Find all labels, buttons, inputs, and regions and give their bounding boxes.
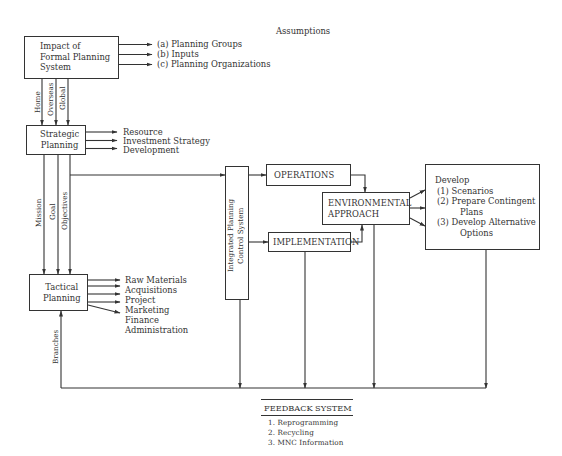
environmental-box-line: ENVIRONMENTAL [328, 198, 411, 209]
tactical-output-project: Project [125, 295, 155, 305]
feedback-system-title: FEEDBACK SYSTEM [261, 399, 353, 416]
tactical-output-acquisitions: Acquisitions [125, 285, 177, 295]
tactical-output-marketing: Marketing [125, 305, 169, 315]
flow-label-global: Global [58, 86, 67, 110]
develop-item-options: Options [435, 228, 536, 239]
flow-label-home: Home [33, 91, 42, 113]
flow-label-mission: Mission [34, 199, 43, 227]
develop-title: Develop [435, 175, 536, 186]
develop-item-scenarios: (1) Scenarios [435, 186, 536, 197]
tactical-box-line: Planning [43, 293, 81, 304]
impact-output-planning-groups: (a) Planning Groups [157, 39, 242, 49]
tactical-output-raw-materials: Raw Materials [125, 275, 187, 285]
tactical-output-administration: Administration [125, 325, 188, 335]
feedback-item-reprogramming: 1. Reprogramming [268, 418, 344, 428]
flow-label-goal: Goal [48, 203, 57, 220]
impact-box-line: Formal Planning [40, 52, 110, 63]
integrated-box-line: Control System [236, 199, 246, 272]
environmental-approach-box: ENVIRONMENTAL APPROACH [322, 192, 410, 225]
develop-item-develop-alternative: (3) Develop Alternative [435, 217, 536, 228]
strategic-box-line: Strategic [40, 129, 79, 140]
flow-label-overseas: Overseas [46, 82, 55, 116]
tactical-box-line: Tactical [43, 282, 81, 293]
operations-box: OPERATIONS [266, 164, 351, 186]
feedback-system-list: 1. Reprogramming 2. Recycling 3. MNC Inf… [268, 418, 344, 447]
integrated-box-line: Integrated Planning [226, 199, 236, 272]
feedback-item-recycling: 2. Recycling [268, 428, 344, 438]
impact-output-inputs: (b) Inputs [157, 49, 199, 59]
tactical-planning-box: Tactical Planning [29, 274, 88, 311]
develop-item-plans: Plans [435, 207, 536, 218]
integrated-box-label: Integrated Planning Control System [226, 199, 246, 272]
operations-label: OPERATIONS [274, 170, 334, 181]
flow-label-branches: Branches [51, 330, 60, 364]
strategic-box-line: Planning [40, 140, 79, 151]
impact-box-line: Impact of [40, 41, 110, 52]
flow-label-objectives: Objectives [60, 192, 69, 230]
impact-of-formal-planning-box: Impact of Formal Planning System [24, 36, 119, 79]
assumptions-label: Assumptions [276, 26, 330, 36]
develop-box: Develop (1) Scenarios (2) Prepare Contin… [425, 164, 540, 250]
feedback-item-mnc-information: 3. MNC Information [268, 438, 344, 448]
strategic-output-development: Development [123, 145, 179, 155]
impact-box-line: System [40, 62, 110, 73]
environmental-box-line: APPROACH [328, 209, 411, 220]
develop-item-prepare-contingent: (2) Prepare Contingent [435, 196, 536, 207]
strategic-planning-box: Strategic Planning [26, 125, 86, 155]
tactical-output-finance: Finance [125, 315, 159, 325]
implementation-label: IMPLEMENTATION [273, 237, 359, 248]
impact-output-planning-organizations: (c) Planning Organizations [157, 59, 271, 69]
implementation-box: IMPLEMENTATION [268, 232, 351, 252]
